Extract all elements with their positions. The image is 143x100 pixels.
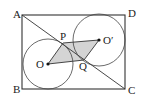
label-o-prime: O′ xyxy=(103,34,113,46)
label-p: P xyxy=(60,30,66,42)
center-o-dot xyxy=(46,62,49,65)
center-o-prime-dot xyxy=(97,38,100,41)
label-d: D xyxy=(128,7,136,19)
label-a: A xyxy=(13,8,21,20)
label-q: Q xyxy=(79,60,87,72)
geometry-diagram: A D B C O O′ P Q xyxy=(0,0,143,100)
diagram-svg: A D B C O O′ P Q xyxy=(0,0,143,100)
diagonal-ac xyxy=(22,15,125,89)
label-c: C xyxy=(128,84,135,96)
label-b: B xyxy=(13,83,20,95)
label-o: O xyxy=(36,58,44,70)
